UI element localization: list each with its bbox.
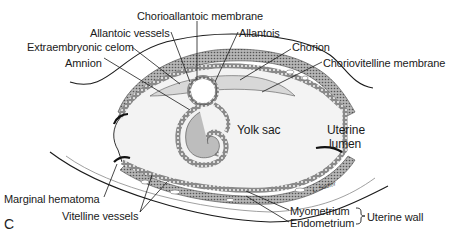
- allantois: [189, 77, 217, 105]
- label-chorion: Chorion: [292, 41, 330, 53]
- panel-letter: C: [4, 216, 14, 232]
- label-chorioallantoic-membrane: Chorioallantoic membrane: [137, 10, 263, 22]
- label-amnion: Amnion: [65, 57, 102, 69]
- label-yolk-sac: Yolk sac: [237, 124, 280, 136]
- label-myometrium: Myometrium: [290, 205, 350, 217]
- label-vitelline-vessels: Vitelline vessels: [62, 210, 138, 222]
- label-choriovitelline-membrane: Choriovitelline membrane: [323, 57, 445, 69]
- label-uterine-lumen-line2: lumen: [329, 138, 361, 150]
- label-allantois: Allantois: [239, 27, 280, 39]
- label-uterine-wall: Uterine wall: [367, 211, 423, 223]
- label-allantoic-vessels: Allantoic vessels: [90, 27, 170, 39]
- label-uterine-lumen-line1: Uterine: [327, 124, 365, 136]
- label-extraembryonic-celom: Extraembryonic celom: [27, 41, 134, 53]
- label-marginal-hematoma: Marginal hematoma: [4, 193, 100, 205]
- uterine-wall-brace: [356, 208, 365, 224]
- label-endometrium: Endometrium: [290, 217, 354, 229]
